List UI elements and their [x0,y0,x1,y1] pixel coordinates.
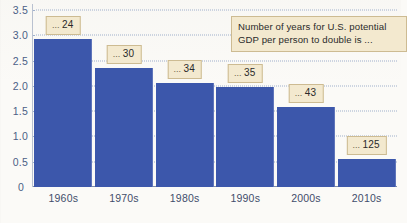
x-tick-label-1990s: 1990s [215,192,275,204]
data-label-1960s: ... 24 [46,16,81,35]
bar-2010s[interactable] [338,159,396,187]
data-label-1990s: ... 35 [228,64,263,83]
bar-cell [33,10,93,187]
x-tick-label-2000s: 2000s [276,192,336,204]
bar-1990s[interactable] [216,87,274,187]
y-tick-label: 0.5 [13,156,28,168]
x-tick-label-1960s: 1960s [33,192,93,204]
bar-1970s[interactable] [95,68,153,187]
bar-2000s[interactable] [277,107,335,187]
y-tick-label: 1.0 [13,130,28,142]
bar-cell [94,10,154,187]
bar-cell [154,10,214,187]
data-label-1980s: ... 34 [167,60,202,79]
x-tick-label-1980s: 1980s [154,192,214,204]
bar-1960s[interactable] [34,39,92,187]
y-tick-zero: 0 [18,181,24,193]
x-tick-label-2010s: 2010s [336,192,396,204]
bar-1980s[interactable] [156,83,214,187]
y-tick-label: 2.5 [13,55,28,67]
x-tick-label-1970s: 1970s [94,192,154,204]
y-tick-label: 3.0 [13,29,28,41]
data-label-2010s: ... 125 [347,136,387,155]
annotation-note: Number of years for U.S. potential GDP p… [231,16,407,52]
data-label-1970s: ... 30 [107,45,142,64]
y-tick-label: 2.0 [13,80,28,92]
y-tick-label: 1.5 [13,105,28,117]
data-label-2000s: ... 43 [289,84,324,103]
x-axis-labels: 1960s1970s1980s1990s2000s2010s [33,192,397,204]
y-tick-label: 3.5 [13,4,28,16]
